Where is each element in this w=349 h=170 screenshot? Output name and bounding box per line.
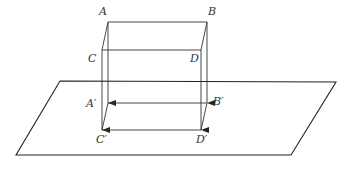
label-a: A: [99, 6, 107, 17]
projection-diagram: [0, 0, 349, 170]
label-b: B: [208, 6, 216, 17]
label-b-prime: B′: [213, 96, 224, 107]
edge-bd: [201, 22, 207, 50]
label-d-prime: D′: [196, 134, 207, 145]
edge-a1c1: [102, 103, 108, 130]
label-d: D: [190, 53, 199, 64]
box-solid: [102, 22, 207, 50]
label-c: C: [88, 53, 96, 64]
edge-b1d1: [201, 103, 207, 130]
edge-ac: [102, 22, 108, 50]
label-c-prime: C′: [96, 134, 107, 145]
projected-shape: [102, 103, 207, 130]
projection-lines: [102, 22, 207, 130]
label-a-prime: A′: [86, 98, 96, 109]
projection-plane: [16, 81, 336, 155]
